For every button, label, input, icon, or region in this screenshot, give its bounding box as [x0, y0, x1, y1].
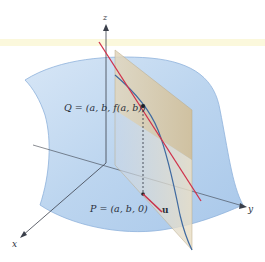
y-axis-label: y	[247, 204, 254, 214]
z-axis-label: z	[102, 13, 108, 22]
background-band	[0, 39, 265, 46]
Q-label: Q = (a, b, f(a, b))	[64, 102, 146, 113]
directional-derivative-diagram: z y x Q = (a, b, f(a, b)) P = (a, b, 0) …	[0, 0, 265, 262]
y-axis-arrow-icon	[239, 203, 247, 209]
vector-u-label: u	[162, 205, 169, 215]
z-axis-arrow-icon	[103, 24, 109, 31]
P-label: P = (a, b, 0)	[89, 203, 148, 214]
x-axis-label: x	[12, 239, 17, 249]
